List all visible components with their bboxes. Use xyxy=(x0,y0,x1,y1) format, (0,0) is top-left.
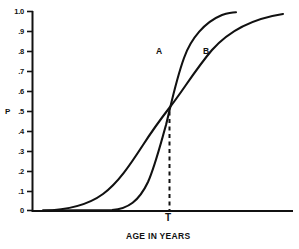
y-tick-label-1-0: 1.0 xyxy=(2,7,24,16)
tau-axis-marker: T xyxy=(165,212,171,223)
y-tick-label-0-9: .9 xyxy=(2,27,24,36)
y-axis-title: P xyxy=(5,107,10,116)
y-tick-label-0-2: .2 xyxy=(2,167,24,176)
curve-a-path xyxy=(43,12,236,210)
curve-label-b: B xyxy=(203,46,209,56)
curve-b-path xyxy=(43,14,283,211)
y-tick-label-0-7: .7 xyxy=(2,67,24,76)
y-tick-label-0-1: .1 xyxy=(2,187,24,196)
probability-age-chart: 1.0 .9 .8 .7 .6 .5 .4 .3 .2 .1 0 P A B T… xyxy=(0,0,299,249)
y-tick-label-0-6: .6 xyxy=(2,87,24,96)
y-tick-label-0-3: .3 xyxy=(2,147,24,156)
chart-plot-area xyxy=(0,0,299,249)
curve-label-a: A xyxy=(156,46,162,56)
x-axis-title: AGE IN YEARS xyxy=(126,231,190,241)
y-tick-label-0-8: .8 xyxy=(2,47,24,56)
y-tick-label-0-4: .4 xyxy=(2,127,24,136)
y-tick-label-0: 0 xyxy=(2,206,24,215)
